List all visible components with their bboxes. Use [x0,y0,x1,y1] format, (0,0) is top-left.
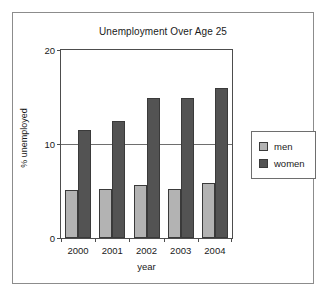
x-tick-mark [198,238,199,242]
y-tick-label: 0 [50,233,55,244]
legend-item-women[interactable]: women [259,155,305,172]
bar-men-2003[interactable] [168,189,181,238]
plot-inner: 0102020002001200220032004 [61,50,232,238]
bar-women-2002[interactable] [147,98,160,238]
x-tick-mark [129,238,130,242]
bar-group [99,50,125,238]
y-tick-mark [57,50,61,51]
y-tick-label: 20 [44,45,55,56]
x-tick-label: 2004 [204,245,225,256]
legend-swatch-men-icon [259,142,268,151]
x-tick-mark [164,238,165,242]
chart-legend: men women [251,131,316,179]
y-axis-title: % unemployed [19,93,29,183]
x-tick-mark [61,238,62,242]
x-axis-title: year [60,261,233,272]
bar-men-2002[interactable] [134,185,147,238]
x-tick-label: 2000 [68,245,89,256]
bar-women-2000[interactable] [78,130,91,238]
bar-women-2004[interactable] [215,88,228,238]
bar-men-2001[interactable] [99,189,112,238]
plot-area: 0102020002001200220032004 [60,49,233,239]
bar-men-2004[interactable] [202,183,215,238]
chart-title: Unemployment Over Age 25 [13,26,313,37]
x-tick-label: 2002 [136,245,157,256]
chart-figure: Unemployment Over Age 25 % unemployed 01… [12,12,314,284]
y-tick-mark [57,144,61,145]
bar-group [202,50,228,238]
legend-swatch-women-icon [259,159,268,168]
bar-men-2000[interactable] [65,190,78,238]
x-tick-label: 2001 [102,245,123,256]
bar-women-2003[interactable] [181,98,194,238]
bar-group [65,50,91,238]
x-tick-mark [95,238,96,242]
x-tick-mark [231,238,232,242]
legend-item-men[interactable]: men [259,138,305,155]
bar-group [134,50,160,238]
y-tick-label: 10 [44,139,55,150]
bar-group [168,50,194,238]
legend-label-women: women [274,158,305,169]
x-tick-label: 2003 [170,245,191,256]
legend-label-men: men [274,141,292,152]
bar-women-2001[interactable] [112,121,125,239]
